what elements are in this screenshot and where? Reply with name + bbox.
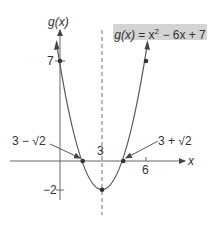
equation-rhs-1: = x (135, 28, 155, 42)
equation-rhs-2: − 6x + 7 (159, 28, 206, 42)
point-0-7 (58, 59, 63, 64)
tick-label-neg2: −2 (43, 183, 57, 197)
annotation-arrow-left (50, 144, 80, 158)
point-6-7 (144, 59, 149, 64)
point-root-left (80, 159, 85, 164)
point-root-right (121, 159, 126, 164)
equation-box: g(x) = x2 − 6x + 7 (113, 24, 207, 40)
annotation-arrow-right (126, 141, 158, 158)
curve-arrow-left (54, 40, 60, 50)
tick-label-7: 7 (47, 54, 54, 68)
root-right-label: 3 + √2 (158, 134, 192, 148)
x-axis-label: x (187, 154, 195, 168)
equation-lhs: g(x) (114, 28, 135, 42)
root-left-label: 3 − √2 (12, 134, 46, 148)
point-vertex (100, 187, 105, 192)
y-axis-label: g(x) (48, 15, 69, 29)
tick-label-6: 6 (142, 163, 149, 177)
tick-label-3: 3 (97, 144, 104, 158)
